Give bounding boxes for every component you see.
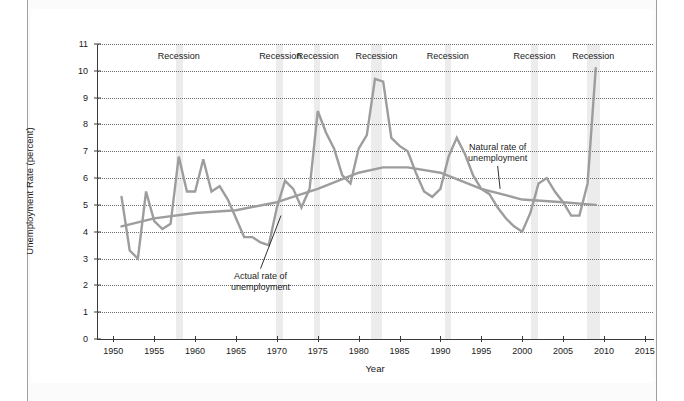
- recession-label: Recession: [259, 51, 301, 61]
- x-tick-label: 2005: [553, 346, 573, 356]
- screenshot-root: Unemployment Rate (percent) Year 0123456…: [0, 0, 684, 401]
- x-tick-mark: [318, 336, 319, 342]
- y-tick-mark: [94, 204, 101, 205]
- x-axis-line: [97, 339, 654, 340]
- annotation-line-2: unemployment: [231, 282, 290, 293]
- x-tick-label: 1960: [185, 346, 205, 356]
- x-axis-title: Year: [365, 363, 384, 374]
- x-tick-mark: [113, 336, 114, 342]
- y-tick-mark: [94, 124, 101, 125]
- y-tick-mark: [94, 44, 101, 45]
- x-tick-label: 1985: [390, 346, 410, 356]
- y-tick-mark: [94, 231, 101, 232]
- y-tick-mark: [94, 178, 101, 179]
- x-tick-label: 1990: [430, 346, 450, 356]
- y-tick-label: 2: [83, 280, 88, 290]
- x-tick-label: 1955: [144, 346, 164, 356]
- x-tick-mark: [481, 336, 482, 342]
- y-tick-mark: [94, 97, 101, 98]
- y-tick-label: 3: [83, 254, 88, 264]
- recession-label: Recession: [158, 51, 200, 61]
- recession-label: Recession: [297, 51, 339, 61]
- y-tick-label: 9: [83, 93, 88, 103]
- recession-label: Recession: [356, 51, 398, 61]
- plot-area: [97, 44, 653, 339]
- y-tick-mark: [94, 70, 101, 71]
- x-tick-label: 1995: [471, 346, 491, 356]
- annotation-line-2: unemployment: [468, 153, 527, 164]
- x-tick-label: 2010: [594, 346, 614, 356]
- y-tick-label: 6: [83, 173, 88, 183]
- x-tick-mark: [522, 336, 523, 342]
- x-tick-label: 1950: [103, 346, 123, 356]
- series-layer: [97, 44, 653, 339]
- x-tick-label: 1970: [267, 346, 287, 356]
- annotation-line-1: Actual rate of: [231, 271, 290, 282]
- x-tick-mark: [400, 336, 401, 342]
- y-tick-label: 4: [83, 227, 88, 237]
- x-tick-mark: [604, 336, 605, 342]
- y-tick-label: 8: [83, 119, 88, 129]
- y-tick-label: 7: [83, 146, 88, 156]
- x-tick-mark: [563, 336, 564, 342]
- annotation-line-1: Natural rate of: [468, 142, 527, 153]
- x-tick-mark: [195, 336, 196, 342]
- x-tick-mark: [359, 336, 360, 342]
- x-tick-label: 1980: [349, 346, 369, 356]
- x-tick-mark: [645, 336, 646, 342]
- x-tick-label: 2015: [635, 346, 655, 356]
- y-tick-mark: [94, 285, 101, 286]
- recession-label: Recession: [427, 51, 469, 61]
- x-tick-label: 2000: [512, 346, 532, 356]
- recession-label: Recession: [572, 51, 614, 61]
- y-tick-label: 11: [79, 39, 88, 49]
- natural-unemployment-line: [122, 167, 596, 226]
- x-tick-mark: [236, 336, 237, 342]
- x-tick-mark: [440, 336, 441, 342]
- x-tick-mark: [154, 336, 155, 342]
- y-tick-label: 10: [78, 66, 88, 76]
- x-tick-mark: [277, 336, 278, 342]
- chart-annotation: Actual rate ofunemployment: [231, 271, 290, 293]
- recession-label: Recession: [513, 51, 555, 61]
- y-tick-label: 0: [83, 334, 88, 344]
- y-tick-mark: [94, 151, 101, 152]
- figure-container: Unemployment Rate (percent) Year 0123456…: [31, 9, 653, 383]
- x-tick-label: 1965: [226, 346, 246, 356]
- chart-annotation: Natural rate ofunemployment: [468, 142, 527, 164]
- y-tick-label: 1: [83, 307, 88, 317]
- y-tick-label: 5: [83, 200, 88, 210]
- y-axis-title: Unemployment Rate (percent): [24, 127, 35, 254]
- x-tick-label: 1975: [308, 346, 328, 356]
- y-tick-mark: [94, 258, 101, 259]
- y-tick-mark: [94, 312, 101, 313]
- y-tick-mark: [94, 339, 101, 340]
